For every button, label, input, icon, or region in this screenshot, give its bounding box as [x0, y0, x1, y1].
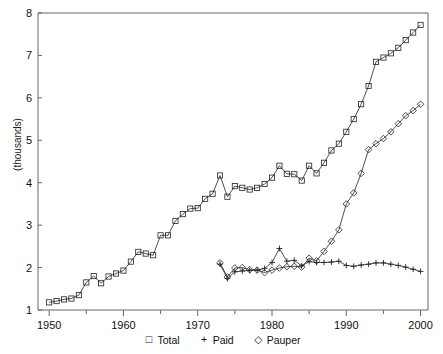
x-axis-tick-label: 2000 — [401, 319, 441, 331]
data-point — [358, 262, 364, 268]
plot-frame — [38, 13, 428, 310]
data-point — [381, 260, 387, 266]
x-axis-tick-label: 1950 — [29, 319, 69, 331]
series-paid — [217, 246, 423, 282]
x-axis-tick-label: 1980 — [252, 319, 292, 331]
y-axis-tick-label: 6 — [10, 92, 32, 104]
data-point — [410, 266, 416, 272]
y-axis-tick-label: 7 — [10, 49, 32, 61]
legend-item-paid: +Paid — [198, 333, 234, 346]
chart-canvas — [0, 0, 443, 354]
y-axis-tick-label: 2 — [10, 262, 32, 274]
y-axis-tick-label: 5 — [10, 134, 32, 146]
data-point — [351, 263, 357, 269]
legend-label: Total — [157, 334, 179, 346]
chart-legend: □Total+Paid◇Pauper — [0, 332, 443, 346]
data-point — [388, 261, 394, 267]
legend-label: Paid — [213, 334, 234, 346]
plus-marker-icon: + — [198, 333, 211, 345]
series-line — [49, 25, 420, 302]
data-point — [366, 261, 372, 267]
legend-item-total: □Total — [142, 333, 179, 346]
series-pauper — [217, 101, 424, 280]
square-marker-icon: □ — [142, 333, 155, 345]
y-axis-tick-label: 3 — [10, 219, 32, 231]
x-axis-tick-label: 1970 — [178, 319, 218, 331]
data-point — [403, 264, 409, 270]
legend-item-pauper: ◇Pauper — [252, 333, 301, 346]
x-axis-tick-label: 1990 — [326, 319, 366, 331]
series-line — [220, 104, 421, 277]
plot-area — [0, 0, 443, 354]
x-axis-tick-label: 1960 — [103, 319, 143, 331]
y-axis-tick-label: 4 — [10, 177, 32, 189]
data-point — [277, 246, 283, 252]
data-point — [395, 263, 401, 269]
chart-figure: (thousands) 12345678 1950196019701980199… — [0, 0, 443, 354]
data-point — [336, 258, 342, 264]
data-point — [418, 268, 424, 274]
y-axis-tick-label: 8 — [10, 7, 32, 19]
data-point — [343, 263, 349, 269]
data-point — [321, 260, 327, 266]
data-point — [291, 257, 297, 263]
y-axis-tick-label: 1 — [10, 304, 32, 316]
data-point — [329, 259, 335, 265]
diamond-marker-icon: ◇ — [252, 333, 265, 345]
legend-label: Pauper — [267, 334, 301, 346]
data-point — [373, 260, 379, 266]
series-total — [47, 22, 424, 305]
